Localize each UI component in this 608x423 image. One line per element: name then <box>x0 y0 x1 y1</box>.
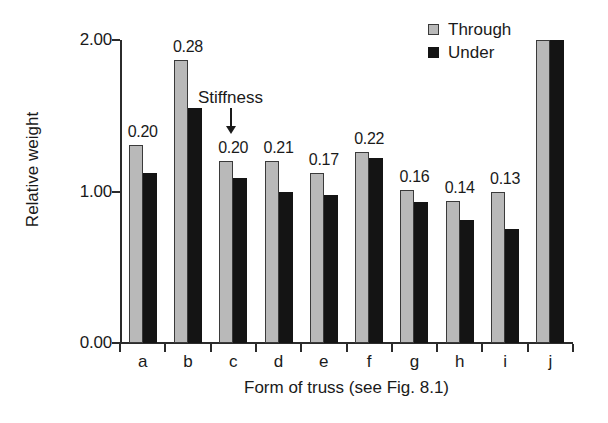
x-axis-category-label: d <box>264 352 294 371</box>
bar-under <box>188 108 202 343</box>
bar-under <box>505 229 519 343</box>
bar-under <box>369 158 383 343</box>
bar-through <box>491 192 505 344</box>
bar-chart: Relative weight Form of truss (see Fig. … <box>0 0 608 423</box>
bar-value-label: 0.14 <box>437 179 483 196</box>
bar-under <box>324 195 338 343</box>
y-axis-tick-label: 1.00 <box>58 183 112 200</box>
bar-value-label: 0.22 <box>346 130 392 147</box>
y-axis-tick-label: 2.00 <box>58 31 112 48</box>
y-axis-line <box>120 40 122 344</box>
bar-through <box>219 161 233 343</box>
bar-through <box>265 161 279 343</box>
bar-value-label: 0.20 <box>120 123 166 140</box>
x-axis-title: Form of truss (see Fig. 8.1) <box>120 378 573 397</box>
bar-through <box>310 173 324 343</box>
bar-through <box>400 190 414 343</box>
x-axis-category-label: g <box>399 352 429 371</box>
bar-under <box>414 202 428 343</box>
x-axis-category-label: b <box>173 352 203 371</box>
x-axis-tick <box>527 344 529 352</box>
bar-under <box>460 220 474 343</box>
x-axis-tick <box>300 344 302 352</box>
x-axis-tick <box>255 344 257 352</box>
x-axis-tick <box>572 344 574 352</box>
stiffness-arrow-icon <box>230 108 232 128</box>
bar-under <box>143 173 157 343</box>
bar-through <box>446 201 460 343</box>
x-axis-category-label: a <box>128 352 158 371</box>
legend-swatch-through-icon <box>428 24 439 35</box>
x-axis-category-label: f <box>354 352 384 371</box>
bar-through <box>129 145 143 343</box>
x-axis-category-label: c <box>218 352 248 371</box>
bar-value-label: 0.21 <box>256 139 302 156</box>
bar-value-label: 0.16 <box>391 168 437 185</box>
bar-through <box>174 60 188 343</box>
bar-value-label: 0.28 <box>165 38 211 55</box>
x-axis-category-label: e <box>309 352 339 371</box>
x-axis-tick <box>481 344 483 352</box>
stiffness-annotation-label: Stiffness <box>198 88 263 107</box>
bar-value-label: 0.17 <box>301 151 347 168</box>
bar-through <box>355 152 369 343</box>
x-axis-category-label: h <box>445 352 475 371</box>
legend-item-label: Under <box>448 43 494 63</box>
x-axis-tick <box>436 344 438 352</box>
bar-under <box>233 178 247 343</box>
x-axis-tick <box>119 344 121 352</box>
bar-value-label: 0.20 <box>210 139 256 156</box>
stiffness-arrowhead-icon <box>226 126 236 134</box>
y-axis-tick <box>112 191 120 193</box>
x-axis-tick <box>346 344 348 352</box>
y-axis-tick-label: 0.00 <box>58 334 112 351</box>
legend-item-label: Through <box>448 20 511 40</box>
x-axis-category-label: i <box>490 352 520 371</box>
y-axis-title: Relative weight <box>23 80 42 260</box>
bar-value-label: 0.13 <box>482 170 528 187</box>
x-axis-tick <box>164 344 166 352</box>
bar-under <box>550 40 564 343</box>
bar-under <box>279 192 293 344</box>
x-axis-tick <box>210 344 212 352</box>
y-axis-tick <box>112 39 120 41</box>
bar-through <box>536 40 550 343</box>
legend-swatch-under-icon <box>428 47 439 58</box>
x-axis-category-label: j <box>535 352 565 371</box>
x-axis-tick <box>391 344 393 352</box>
